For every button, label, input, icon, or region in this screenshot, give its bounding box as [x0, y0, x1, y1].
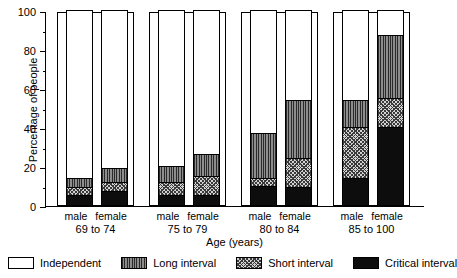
group-frame-85-100 — [333, 12, 410, 206]
y-tick-80: 80 — [40, 51, 46, 52]
segment-critical-interval — [102, 191, 127, 205]
legend-label-critical-interval: Critical interval — [385, 257, 457, 269]
plot-area: 100 80 60 40 20 0 — [45, 12, 424, 207]
legend-label-independent: Independent — [40, 257, 101, 269]
legend-item-independent[interactable]: Independent — [8, 257, 101, 269]
chart-legend: Independent Long interval Short interval… — [8, 254, 423, 272]
segment-short-interval — [67, 187, 92, 195]
segment-short-interval — [102, 182, 127, 192]
segment-critical-interval — [286, 187, 311, 205]
group-frame-75-79 — [149, 12, 226, 206]
legend-swatch-short-interval-icon — [236, 257, 262, 269]
y-tick-minor-50 — [43, 110, 47, 111]
legend-label-long-interval: Long interval — [153, 257, 216, 269]
segment-independent — [67, 10, 92, 178]
y-tick-20: 20 — [40, 168, 46, 169]
legend-swatch-long-interval-icon — [121, 257, 147, 269]
segment-long-interval — [102, 168, 127, 182]
bar-female-69-74[interactable] — [101, 10, 128, 205]
y-axis-title: Percentage of people — [27, 15, 39, 205]
y-tick-100: 100 — [40, 12, 46, 13]
y-tick-minor-90 — [43, 32, 47, 33]
legend-item-critical-interval[interactable]: Critical interval — [353, 257, 457, 269]
segment-critical-interval — [343, 178, 368, 205]
x-label-female-75-79: female — [176, 210, 230, 222]
x-label-female-85-100: female — [360, 210, 414, 222]
legend-item-short-interval[interactable]: Short interval — [236, 257, 333, 269]
segment-long-interval — [159, 166, 184, 182]
y-tick-label-60: 60 — [24, 84, 36, 96]
legend-swatch-critical-interval-icon — [353, 257, 379, 269]
segment-independent — [343, 10, 368, 100]
segment-long-interval — [251, 133, 276, 178]
legend-label-short-interval: Short interval — [268, 257, 333, 269]
segment-independent — [194, 10, 219, 154]
segment-critical-interval — [67, 195, 92, 205]
segment-short-interval — [194, 176, 219, 196]
y-tick-label-100: 100 — [18, 6, 36, 18]
y-tick-label-20: 20 — [24, 162, 36, 174]
segment-short-interval — [159, 182, 184, 196]
segment-long-interval — [67, 178, 92, 188]
segment-critical-interval — [251, 186, 276, 206]
bar-male-69-74[interactable] — [66, 10, 93, 205]
segment-short-interval — [378, 98, 403, 127]
y-tick-label-80: 80 — [24, 45, 36, 57]
segment-critical-interval — [194, 195, 219, 205]
bar-female-80-84[interactable] — [285, 10, 312, 205]
segment-long-interval — [343, 100, 368, 127]
bar-male-85-100[interactable] — [342, 10, 369, 205]
y-tick-minor-30 — [43, 149, 47, 150]
x-axis-title: Age (years) — [45, 236, 424, 248]
segment-critical-interval — [378, 127, 403, 205]
segment-long-interval — [378, 35, 403, 97]
segment-short-interval — [286, 158, 311, 187]
y-tick-minor-10 — [43, 188, 47, 189]
group-frame-80-84 — [241, 12, 318, 206]
segment-independent — [159, 10, 184, 166]
bar-female-75-79[interactable] — [193, 10, 220, 205]
segment-critical-interval — [159, 195, 184, 205]
y-tick-label-40: 40 — [24, 123, 36, 135]
segment-short-interval — [343, 127, 368, 178]
y-tick-label-0: 0 — [30, 201, 36, 213]
group-frame-69-74 — [57, 12, 134, 206]
segment-long-interval — [286, 100, 311, 159]
segment-independent — [102, 10, 127, 168]
segment-independent — [251, 10, 276, 133]
segment-independent — [378, 10, 403, 35]
y-tick-40: 40 — [40, 129, 46, 130]
y-tick-60: 60 — [40, 90, 46, 91]
x-label-female-69-74: female — [84, 210, 138, 222]
segment-short-interval — [251, 178, 276, 186]
bar-male-75-79[interactable] — [158, 10, 185, 205]
y-tick-0: 0 — [40, 207, 46, 208]
x-label-group-85-100: 85 to 100 — [333, 223, 410, 235]
segment-long-interval — [194, 154, 219, 175]
legend-swatch-independent-icon — [8, 257, 34, 269]
segment-independent — [286, 10, 311, 100]
x-label-group-80-84: 80 to 84 — [241, 223, 318, 235]
y-tick-minor-70 — [43, 71, 47, 72]
legend-item-long-interval[interactable]: Long interval — [121, 257, 216, 269]
x-label-group-75-79: 75 to 79 — [149, 223, 226, 235]
x-label-female-80-84: female — [268, 210, 322, 222]
x-label-group-69-74: 69 to 74 — [57, 223, 134, 235]
bar-male-80-84[interactable] — [250, 10, 277, 205]
bar-female-85-100[interactable] — [377, 10, 404, 205]
